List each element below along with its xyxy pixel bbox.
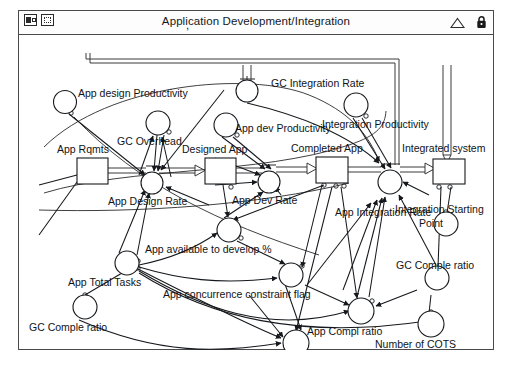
stock-label: Designed App bbox=[182, 143, 248, 155]
titlebar-right-icons bbox=[450, 15, 487, 33]
screenshot-root: , Application Development/Integration bbox=[0, 0, 511, 370]
variable-app-total-tasks[interactable]: App Total Tasks bbox=[68, 251, 141, 288]
diagram-canvas[interactable]: App Rqmts Designed App Completed App Int… bbox=[19, 35, 493, 350]
variable-label: GC Comple ratio bbox=[396, 259, 474, 271]
diagram-window: , Application Development/Integration bbox=[18, 10, 494, 350]
variable-app-dev-productivity[interactable]: App dev Productivity bbox=[214, 113, 331, 137]
stock-integrated-system[interactable]: Integrated system bbox=[402, 142, 486, 184]
stock-designed-app[interactable]: Designed App bbox=[182, 143, 248, 184]
window-title: Application Development/Integration bbox=[19, 15, 493, 27]
rate-gc-integration-rate[interactable]: GC Integration Rate bbox=[236, 77, 365, 102]
variable-integration-productivity[interactable]: Integration Productivity bbox=[322, 93, 430, 130]
variable-label: App Compl ratio bbox=[307, 325, 382, 337]
variable-label: App concurrence constraint flag bbox=[163, 288, 311, 300]
rate-label: GC Integration Rate bbox=[271, 77, 365, 89]
variable-label: App available to develop % bbox=[145, 243, 272, 255]
variable-label: GC Comple ratio bbox=[29, 321, 107, 333]
variable-number-of-cots[interactable]: Number of COTS bbox=[375, 311, 456, 350]
stock-completed-app[interactable]: Completed App bbox=[291, 142, 363, 183]
variable-app-concurrence-constraint-flag[interactable]: App concurrence constraint flag bbox=[163, 263, 311, 300]
variable-app-available-to-develop[interactable]: App available to develop % bbox=[145, 218, 272, 255]
variables-layer[interactable]: App design Productivity GC Overhead App … bbox=[29, 87, 484, 350]
variable-label: App dev Productivity bbox=[235, 122, 331, 134]
variable-label: GC Overhead bbox=[117, 135, 182, 147]
variable-gc-comple-ratio-left[interactable]: GC Comple ratio bbox=[29, 295, 107, 333]
variable-label: App Total Tasks bbox=[68, 276, 141, 288]
rate-app-dev-rate[interactable]: App Dev Rate bbox=[232, 171, 298, 206]
variable-label: Integration Productivity bbox=[322, 118, 430, 130]
stock-flow-diagram[interactable]: App Rqmts Designed App Completed App Int… bbox=[19, 35, 493, 350]
variable-gc-overhead[interactable]: GC Overhead bbox=[117, 111, 182, 147]
triangle-collapse-icon[interactable] bbox=[450, 15, 465, 33]
window-titlebar[interactable]: , Application Development/Integration bbox=[19, 11, 493, 35]
lock-icon[interactable] bbox=[476, 15, 487, 33]
variable-stop[interactable]: STOP bbox=[277, 330, 309, 350]
variable-label-line2: Point bbox=[419, 217, 443, 229]
stock-label: Completed App bbox=[291, 142, 363, 154]
variable-app-design-productivity[interactable]: App design Productivity bbox=[54, 87, 189, 114]
stock-label: Integrated system bbox=[402, 142, 486, 154]
variable-label: App design Productivity bbox=[78, 87, 188, 99]
variable-label-line1: Integration Starting bbox=[395, 203, 484, 215]
variable-label: Number of COTS bbox=[375, 338, 456, 350]
variable-integration-starting-point[interactable]: Integration Starting Point bbox=[395, 203, 484, 236]
rate-app-design-rate[interactable]: App Design Rate bbox=[108, 172, 188, 207]
variable-gc-comple-ratio-right[interactable]: GC Comple ratio bbox=[396, 259, 474, 290]
rate-label: App Dev Rate bbox=[232, 194, 298, 206]
rate-label: App Design Rate bbox=[108, 195, 188, 207]
stock-label: App Rqmts bbox=[57, 143, 109, 155]
